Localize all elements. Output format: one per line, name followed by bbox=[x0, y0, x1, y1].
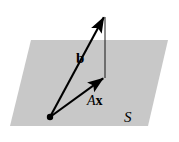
vector-ax-label: Ax bbox=[87, 94, 103, 108]
figure-canvas bbox=[0, 0, 179, 142]
vector-b-label: b bbox=[76, 51, 84, 66]
subspace-plane bbox=[10, 40, 168, 126]
subspace-plane-label: S bbox=[124, 110, 132, 125]
projection-diagram: b Ax S bbox=[0, 0, 179, 142]
origin-point bbox=[47, 114, 53, 120]
vector-ax-label-vector: x bbox=[96, 93, 103, 108]
vector-ax-label-matrix: A bbox=[87, 93, 96, 108]
